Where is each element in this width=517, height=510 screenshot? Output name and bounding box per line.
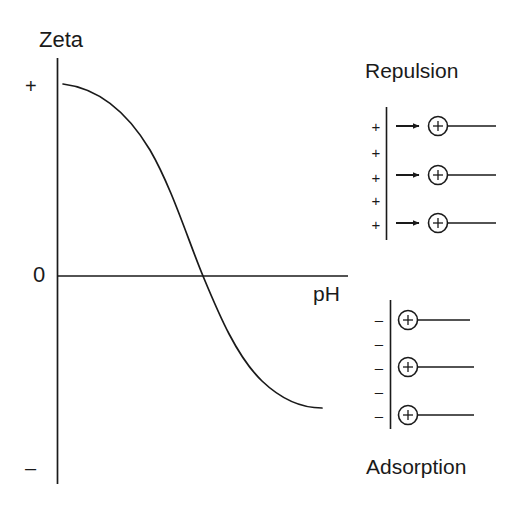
adsorption-panel-linework [391,300,475,429]
adsorption-wall-charge: – [375,384,383,399]
zeta-curve [63,84,322,408]
repulsion-panel-title: Repulsion [365,60,458,81]
repulsion-wall-charge: + [372,217,381,232]
adsorption-wall-charge: – [375,360,383,375]
y-axis-tick-zero: 0 [33,264,45,286]
y-axis-tick-negative: – [25,458,36,478]
adsorption-panel-title: Adsorption [366,456,466,477]
repulsion-wall-charge: + [372,170,381,185]
y-axis-label: Zeta [39,29,83,51]
adsorption-wall-charge: – [375,312,383,327]
adsorption-wall-charge: – [375,336,383,351]
repulsion-panel-linework [387,107,497,240]
x-axis-label: pH [313,283,340,304]
repulsion-wall-charge: + [372,193,381,208]
repulsion-wall-charge: + [372,145,381,160]
y-axis-tick-positive: + [25,76,37,96]
repulsion-wall-charge: + [372,119,381,134]
zeta-potential-figure: Zeta pH + 0 – Repulsion Adsorption + + +… [0,0,517,510]
chart-axes [58,58,349,484]
adsorption-wall-charge: – [375,408,383,423]
